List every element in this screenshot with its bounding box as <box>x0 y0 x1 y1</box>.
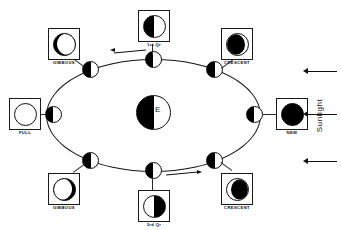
phase-box-waning-gibbous <box>48 28 80 60</box>
moon-disc-waning-crescent <box>226 33 249 56</box>
phase-caption-waxing-crescent: CRESCENT <box>210 205 264 211</box>
phase-box-full-moon <box>9 98 41 130</box>
shade-waxing-gibbous <box>53 178 72 200</box>
phase-box-waxing-crescent <box>221 173 253 205</box>
moon-phase-diagram: E 1st Qr GIBBOUS C <box>0 0 341 230</box>
orbit-direction-arrow-bottom <box>166 170 202 177</box>
orbit-moon-bottom-left <box>82 152 99 169</box>
phase-caption-third-quarter: 3rd Qr <box>127 222 181 228</box>
sunlight-arrow-bottom <box>303 158 337 165</box>
earth-disc <box>136 95 171 130</box>
orbit-moon-left <box>45 106 62 123</box>
phase-caption-waxing-gibbous: GIBBOUS <box>37 205 91 211</box>
moon-disc-waxing-crescent <box>226 178 249 201</box>
phase-waxing-crescent: CRESCENT <box>221 173 253 211</box>
leader-waxing-crescent <box>220 162 232 171</box>
orbit-moon-bottom-right <box>206 152 223 169</box>
moon-disc-waning-gibbous <box>53 33 76 56</box>
earth-label: E <box>155 105 161 115</box>
leader-new <box>263 114 276 115</box>
phase-full-moon: FULL <box>9 98 41 136</box>
phase-caption-waning-crescent: CRESCENT <box>210 60 264 66</box>
phase-third-quarter: 3rd Qr <box>138 190 170 228</box>
moon-disc-waxing-gibbous <box>53 178 76 201</box>
sunlight-label: Sunlight <box>316 98 325 132</box>
moon-disc-full <box>14 103 37 126</box>
phase-box-waxing-gibbous <box>48 173 80 205</box>
leader-waxing-gibbous <box>73 164 85 173</box>
shade-waning-crescent <box>226 34 245 55</box>
phase-waning-gibbous: GIBBOUS <box>48 28 80 66</box>
orbit-moon-bottom-center <box>145 162 162 179</box>
phase-box-waning-crescent <box>221 28 253 60</box>
phase-caption-full-moon: FULL <box>0 130 52 136</box>
orbit-moon-right <box>246 106 263 123</box>
phase-box-first-quarter <box>138 10 170 42</box>
shade-waxing-crescent <box>231 179 249 200</box>
leader-third-quarter <box>152 179 153 190</box>
moon-disc-first-quarter <box>143 15 166 38</box>
phase-caption-waning-gibbous: GIBBOUS <box>37 60 91 66</box>
phase-waning-crescent: CRESCENT <box>221 28 253 66</box>
phase-waxing-gibbous: GIBBOUS <box>48 173 80 211</box>
phase-box-third-quarter <box>138 190 170 222</box>
phase-first-quarter: 1st Qr <box>138 10 170 48</box>
orbit-moon-top-center <box>145 51 162 68</box>
shade-waning-gibbous <box>57 33 76 55</box>
moon-disc-third-quarter <box>143 195 166 218</box>
sunlight-label-wrap: Sunlight <box>300 90 340 140</box>
orbit-direction-arrow-top <box>110 48 146 55</box>
sunlight-arrow-top <box>303 68 337 75</box>
